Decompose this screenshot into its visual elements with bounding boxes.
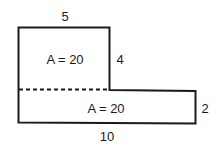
- top-width-label: 5: [61, 9, 68, 24]
- lower-height-label: 2: [201, 101, 208, 116]
- upper-area-label: A = 20: [46, 52, 83, 67]
- lower-area-label: A = 20: [87, 101, 124, 116]
- composite-figure: 5 4 2 10 A = 20 A = 20: [0, 0, 221, 152]
- bottom-width-label: 10: [100, 129, 114, 144]
- upper-height-label: 4: [116, 52, 123, 67]
